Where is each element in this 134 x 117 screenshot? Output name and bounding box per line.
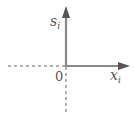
y-axis-arrow-icon <box>62 6 70 18</box>
axes-svg: si xi 0 <box>0 0 134 117</box>
x-axis-arrow-icon <box>118 62 130 70</box>
coordinate-diagram: si xi 0 <box>0 0 134 117</box>
origin-label: 0 <box>55 69 63 84</box>
x-axis-label: xi <box>110 67 121 85</box>
y-axis-label: si <box>50 13 60 31</box>
